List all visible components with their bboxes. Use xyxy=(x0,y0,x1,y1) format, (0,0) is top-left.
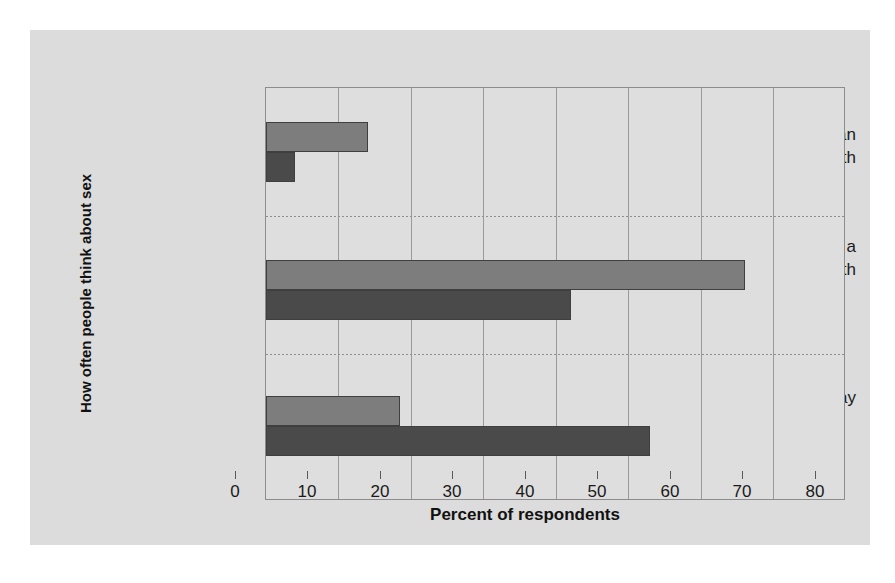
x-tick-20 xyxy=(380,471,381,479)
x-tick-40 xyxy=(525,471,526,479)
plot-area: Women Men xyxy=(265,87,845,500)
chart-panel: How often people think about sex Less th… xyxy=(30,30,870,545)
chart-figure: How often people think about sex Less th… xyxy=(0,0,895,583)
x-axis-title: Percent of respondents xyxy=(235,505,815,525)
x-tick-label-20: 20 xyxy=(350,482,410,502)
bar-women-few-times-a-week-or-month xyxy=(266,260,745,290)
gridline-60 xyxy=(701,88,702,499)
x-tick-label-40: 40 xyxy=(495,482,555,502)
x-tick-label-80: 80 xyxy=(785,482,845,502)
x-tick-label-10: 10 xyxy=(277,482,337,502)
bar-women-less-than-once-a-month xyxy=(266,122,368,152)
category-separator-1 xyxy=(266,216,844,217)
bar-men-few-times-a-week-or-month xyxy=(266,290,571,320)
x-tick-label-30: 30 xyxy=(422,482,482,502)
gridline-70 xyxy=(773,88,774,499)
bar-men-less-than-once-a-month xyxy=(266,152,295,182)
x-tick-50 xyxy=(597,471,598,479)
x-tick-label-0: 0 xyxy=(205,482,265,502)
x-tick-label-50: 50 xyxy=(567,482,627,502)
x-tick-0 xyxy=(235,471,236,479)
bar-men-every-day xyxy=(266,426,650,456)
x-tick-30 xyxy=(452,471,453,479)
x-tick-60 xyxy=(670,471,671,479)
category-separator-2 xyxy=(266,354,844,355)
y-axis-title: How often people think about sex xyxy=(77,144,94,444)
x-tick-80 xyxy=(815,471,816,479)
x-tick-label-60: 60 xyxy=(640,482,700,502)
x-tick-70 xyxy=(742,471,743,479)
bar-women-every-day xyxy=(266,396,400,426)
x-tick-10 xyxy=(307,471,308,479)
x-tick-label-70: 70 xyxy=(712,482,772,502)
